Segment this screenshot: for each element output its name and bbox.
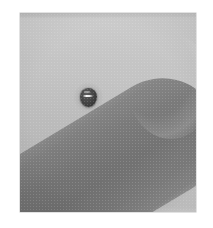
subject-group (20, 13, 196, 212)
specimen-secondary-glint (84, 91, 90, 93)
elongated-rounded-object (20, 56, 196, 212)
specimen-glint (83, 95, 93, 98)
photograph-plate (20, 13, 196, 212)
dark-specimen (80, 88, 97, 107)
screenshot-root (0, 0, 213, 228)
